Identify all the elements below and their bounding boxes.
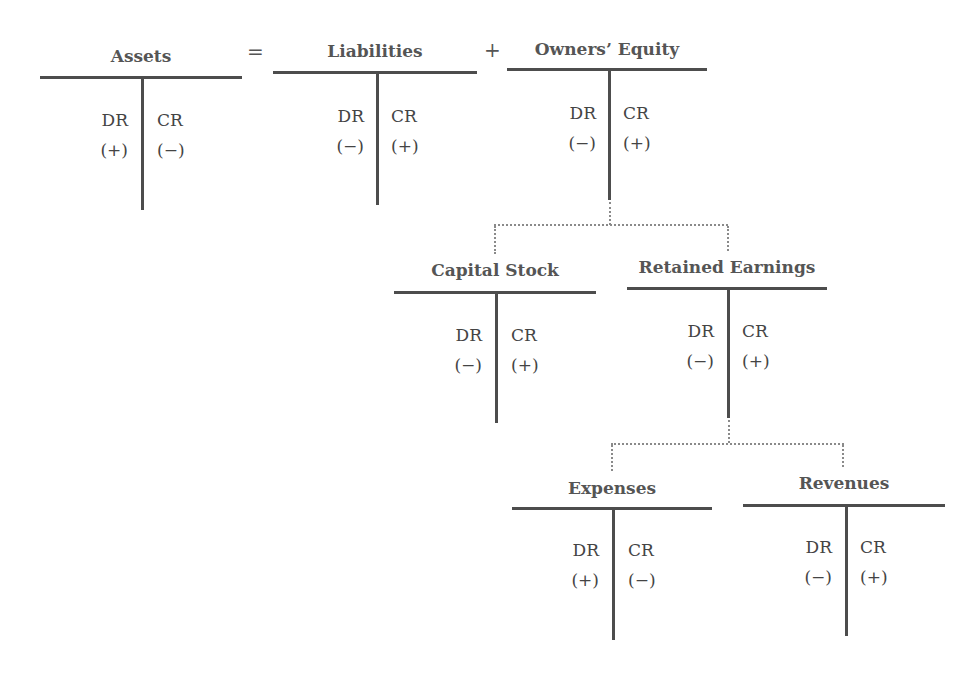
credit-label: CR [623,98,703,128]
credit-side: CR (−) [157,105,237,165]
credit-sign: (−) [157,135,237,165]
debit-label: DR [646,316,714,346]
debit-sign: (+) [531,565,599,595]
t-account-top-line [273,71,477,74]
account-title: Liabilities [273,41,477,61]
debit-label: DR [296,101,364,131]
debit-label: DR [60,105,128,135]
connector-drop-left [611,445,613,471]
credit-label: CR [391,101,471,131]
credit-label: CR [860,532,940,562]
debit-label: DR [528,98,596,128]
t-account-divider [608,69,611,200]
t-account-divider [495,292,498,423]
account-title: Capital Stock [394,260,596,280]
debit-side: DR (+) [531,535,599,595]
debit-sign: (−) [646,346,714,376]
debit-label: DR [531,535,599,565]
credit-sign: (+) [742,346,822,376]
credit-label: CR [511,320,591,350]
debit-side: DR (+) [60,105,128,165]
credit-sign: (+) [860,562,940,592]
t-account-divider [612,508,615,640]
connector-drop-right [727,226,729,251]
credit-side: CR (+) [623,98,703,158]
equals-sign: = [247,40,264,64]
credit-label: CR [157,105,237,135]
credit-label: CR [628,535,708,565]
debit-side: DR (−) [646,316,714,376]
connector-drop-right [842,445,844,467]
debit-sign: (−) [764,562,832,592]
credit-side: CR (−) [628,535,708,595]
credit-side: CR (+) [742,316,822,376]
debit-label: DR [414,320,482,350]
t-account-divider [727,288,730,418]
account-title: Owners’ Equity [507,39,707,59]
t-account-top-line [507,68,707,71]
credit-sign: (+) [391,131,471,161]
debit-side: DR (−) [414,320,482,380]
connector-bar [494,224,728,226]
credit-side: CR (+) [391,101,471,161]
credit-sign: (−) [628,565,708,595]
credit-side: CR (+) [511,320,591,380]
account-title: Revenues [743,473,945,493]
credit-sign: (+) [623,128,703,158]
t-account-divider [141,77,144,210]
connector-stem [728,420,730,443]
connector-drop-left [494,226,496,254]
t-account-top-line [743,504,945,507]
debit-label: DR [764,532,832,562]
credit-side: CR (+) [860,532,940,592]
credit-label: CR [742,316,822,346]
t-account-divider [845,505,848,636]
connector-stem [609,202,611,225]
connector-bar [611,443,844,445]
account-title: Assets [40,46,242,66]
debit-side: DR (−) [296,101,364,161]
debit-side: DR (−) [764,532,832,592]
debit-sign: (−) [296,131,364,161]
debit-sign: (−) [414,350,482,380]
debit-side: DR (−) [528,98,596,158]
debit-sign: (−) [528,128,596,158]
t-account-divider [376,72,379,205]
plus-sign: + [484,38,501,62]
account-title: Retained Earnings [627,257,827,277]
account-title: Expenses [512,478,712,498]
credit-sign: (+) [511,350,591,380]
debit-sign: (+) [60,135,128,165]
